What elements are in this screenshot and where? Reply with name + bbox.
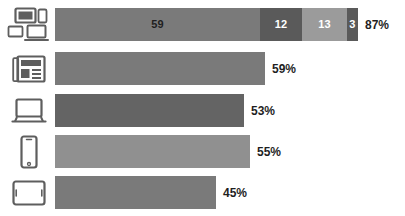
bar-segment[interactable] <box>55 52 265 85</box>
chart-row: 591213387% <box>0 8 405 41</box>
bar-segment[interactable]: 3 <box>347 8 358 41</box>
newspaper-icon-svg <box>12 54 46 84</box>
bar[interactable] <box>55 52 265 85</box>
chart-row: 45% <box>0 176 405 209</box>
multi-device-icon <box>6 8 52 41</box>
bar-value-label: 45% <box>223 176 247 209</box>
bar-value-label: 59% <box>272 52 296 85</box>
bar-value-label: 55% <box>257 135 281 168</box>
chart-row: 53% <box>0 94 405 127</box>
multi-device-icon-svg <box>7 7 51 43</box>
bar-track <box>55 94 244 127</box>
tablet-icon-svg <box>12 180 46 206</box>
bar[interactable]: 5912133 <box>55 8 358 41</box>
bar-segment[interactable]: 13 <box>302 8 347 41</box>
bar-segment[interactable]: 59 <box>55 8 260 41</box>
bar-value-label: 87% <box>365 8 389 41</box>
bar-segment[interactable] <box>55 94 244 127</box>
chart-row: 55% <box>0 135 405 168</box>
newspaper-icon <box>6 52 52 85</box>
smartphone-icon-svg <box>18 135 40 169</box>
device-usage-bar-chart: 591213387%59%53%55%45% <box>0 0 405 216</box>
bar-segment[interactable]: 12 <box>260 8 302 41</box>
bar-track <box>55 176 216 209</box>
bar-segment[interactable] <box>55 135 250 168</box>
bar-track: 5912133 <box>55 8 358 41</box>
bar-value-label: 53% <box>251 94 275 127</box>
smartphone-icon <box>6 135 52 168</box>
bar[interactable] <box>55 94 244 127</box>
laptop-icon <box>6 94 52 127</box>
bar-track <box>55 52 265 85</box>
bar-segment[interactable] <box>55 176 216 209</box>
laptop-icon-svg <box>11 97 47 125</box>
bar[interactable] <box>55 135 250 168</box>
bar-track <box>55 135 250 168</box>
tablet-icon <box>6 176 52 209</box>
bar[interactable] <box>55 176 216 209</box>
chart-row: 59% <box>0 52 405 85</box>
